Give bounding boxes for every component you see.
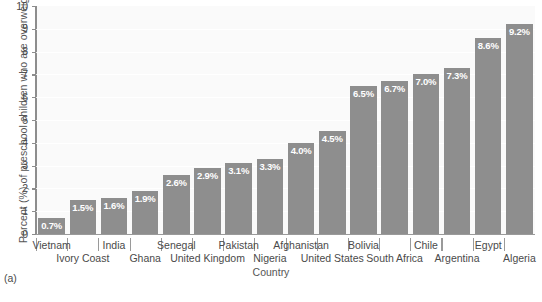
bar-value-label: 9.2% bbox=[506, 26, 533, 37]
bar-value-label: 2.6% bbox=[163, 177, 190, 188]
x-category-label: India bbox=[103, 239, 126, 251]
y-tick-mark-6 bbox=[32, 97, 36, 98]
bar-value-label: 7.0% bbox=[413, 76, 440, 87]
bar-value-label: 6.5% bbox=[350, 88, 377, 99]
x-category-label: Egypt bbox=[475, 239, 502, 251]
y-tick-label-5: 5 bbox=[2, 115, 28, 125]
y-tick-label-3: 3 bbox=[2, 160, 28, 170]
x-category-label: Chile bbox=[414, 239, 438, 251]
x-axis-title: Country bbox=[0, 266, 542, 278]
y-tick-label-2: 2 bbox=[2, 183, 28, 193]
y-tick-label-6: 6 bbox=[2, 92, 28, 102]
cut-off-caption bbox=[0, 295, 542, 302]
y-tick-label-10: 10 bbox=[2, 1, 28, 11]
bar: 1.5% bbox=[70, 200, 97, 234]
bar: 3.1% bbox=[225, 163, 252, 234]
y-tick-label-9: 9 bbox=[2, 23, 28, 33]
gridline-9 bbox=[36, 29, 535, 30]
x-category-label: Pakistan bbox=[219, 239, 259, 251]
bar: 0.7% bbox=[38, 218, 65, 234]
y-tick-mark-1 bbox=[32, 211, 36, 212]
x-category-label: South Africa bbox=[366, 252, 423, 264]
x-tick-separator bbox=[130, 238, 131, 251]
bar-value-label: 4.5% bbox=[319, 133, 346, 144]
bar-value-label: 1.5% bbox=[70, 202, 97, 213]
bar-value-label: 3.3% bbox=[257, 161, 284, 172]
bar: 3.3% bbox=[257, 159, 284, 234]
x-category-label: Vietnam bbox=[32, 239, 70, 251]
y-tick-label-7: 7 bbox=[2, 69, 28, 79]
bar: 1.9% bbox=[132, 191, 159, 234]
y-tick-mark-10 bbox=[32, 6, 36, 7]
bar: 9.2% bbox=[506, 24, 533, 234]
y-tick-mark-5 bbox=[32, 120, 36, 121]
x-axis-line bbox=[35, 234, 535, 235]
bar: 7.0% bbox=[413, 74, 440, 234]
x-tick-separator bbox=[504, 238, 505, 251]
bar-value-label: 6.7% bbox=[381, 83, 408, 94]
x-category-label: Bolivia bbox=[348, 239, 379, 251]
x-tick-separator bbox=[410, 238, 411, 251]
panel-letter: (a) bbox=[4, 272, 17, 284]
x-tick-separator bbox=[441, 238, 442, 251]
bar-value-label: 0.7% bbox=[38, 220, 65, 231]
bar: 1.6% bbox=[101, 198, 128, 234]
bar: 2.9% bbox=[194, 168, 221, 234]
y-tick-mark-4 bbox=[32, 143, 36, 144]
y-tick-mark-8 bbox=[32, 52, 36, 53]
x-category-label: United States bbox=[301, 252, 364, 264]
bar: 6.5% bbox=[350, 86, 377, 234]
bar-value-label: 4.0% bbox=[288, 145, 315, 156]
bar: 7.3% bbox=[444, 68, 471, 234]
y-tick-mark-7 bbox=[32, 74, 36, 75]
gridline-8 bbox=[36, 52, 535, 53]
bar: 6.7% bbox=[381, 81, 408, 234]
bar-value-label: 1.6% bbox=[101, 200, 128, 211]
x-category-label: Algeria bbox=[503, 252, 536, 264]
y-tick-mark-2 bbox=[32, 188, 36, 189]
x-tick-separator bbox=[98, 238, 99, 251]
x-category-label: Ivory Coast bbox=[56, 252, 109, 264]
x-category-label: Argentina bbox=[435, 252, 480, 264]
bar-value-label: 7.3% bbox=[444, 70, 471, 81]
x-category-label: Ghana bbox=[129, 252, 161, 264]
x-tick-separator bbox=[473, 238, 474, 251]
y-tick-mark-0 bbox=[32, 234, 36, 235]
x-tick-separator bbox=[379, 238, 380, 251]
y-tick-label-8: 8 bbox=[2, 46, 28, 56]
y-tick-label-4: 4 bbox=[2, 137, 28, 147]
x-category-label: Nigeria bbox=[253, 252, 286, 264]
bar: 4.0% bbox=[288, 143, 315, 234]
x-category-label: United Kingdom bbox=[170, 252, 245, 264]
bar-value-label: 8.6% bbox=[475, 40, 502, 51]
y-tick-mark-9 bbox=[32, 29, 36, 30]
bar-value-label: 1.9% bbox=[132, 193, 159, 204]
y-tick-mark-3 bbox=[32, 166, 36, 167]
bar: 4.5% bbox=[319, 131, 346, 234]
bar: 8.6% bbox=[475, 38, 502, 234]
bar-chart-figure: Percent (%) of preschool children who ar… bbox=[0, 0, 542, 302]
y-tick-label-0: 0 bbox=[2, 229, 28, 239]
bar-value-label: 2.9% bbox=[194, 170, 221, 181]
bar-value-label: 3.1% bbox=[225, 165, 252, 176]
x-category-label: Afghanistan bbox=[273, 239, 328, 251]
y-tick-label-1: 1 bbox=[2, 206, 28, 216]
bar: 2.6% bbox=[163, 175, 190, 234]
x-category-label: Senegal bbox=[157, 239, 196, 251]
